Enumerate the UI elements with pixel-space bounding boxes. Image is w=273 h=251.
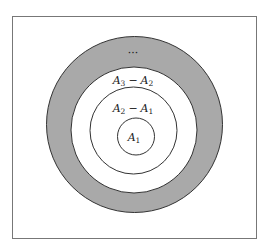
a2-main: A [140, 74, 149, 87]
a3-op: − [128, 74, 137, 87]
a1-sub: 1 [136, 136, 141, 145]
a2b-op: − [128, 102, 137, 115]
a1b-main: A [140, 102, 149, 115]
nested-sets-diagram: ··· A3−A2 A2−A1 A1 [0, 0, 273, 251]
a2-minus-a1-label: A2−A1 [112, 102, 154, 116]
a1-main: A [127, 131, 136, 144]
a1b-sub: 1 [149, 107, 154, 116]
a2b-sub: 2 [121, 107, 126, 116]
a3-main: A [112, 74, 121, 87]
a3-sub: 3 [121, 79, 126, 88]
a3-minus-a2-label: A3−A2 [112, 74, 154, 88]
continuation-label: ··· [128, 47, 139, 60]
a2-sub: 2 [149, 79, 154, 88]
a2b-main: A [112, 102, 121, 115]
